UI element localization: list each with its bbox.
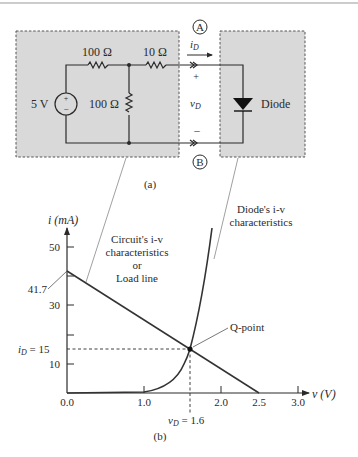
x-tick-2: 2.0 [214, 396, 228, 408]
diode-annotation-line1: Diode's i-v [237, 203, 286, 215]
iv-chart: 50 30 10 0.0 1.0 2.0 2.5 3.0 i (mA) v (V… [18, 203, 336, 443]
caption-a: (a) [144, 178, 157, 191]
terminal-a-label: A [196, 21, 204, 33]
r3-label: 100 Ω [89, 97, 119, 111]
y-intercept-label: 41.7 [28, 283, 48, 295]
circuit-annotation-line2: characteristics [106, 246, 169, 258]
leader-line-diode [214, 158, 238, 259]
q-point-label: Q-point [230, 321, 264, 333]
q-point-leader [193, 328, 228, 347]
source-label: 5 V [31, 97, 49, 111]
vd-value-label: vD = 1.6 [168, 414, 205, 428]
source-minus: − [63, 104, 68, 114]
y-tick-30: 30 [49, 299, 61, 311]
r1-label: 100 Ω [82, 45, 112, 59]
current-label: iD [190, 38, 199, 52]
terminal-b-label: B [196, 156, 203, 168]
x-tick-2-5: 2.5 [252, 396, 266, 408]
r2-label: 10 Ω [143, 45, 167, 59]
x-tick-0: 0.0 [60, 396, 74, 408]
node-dot [127, 63, 131, 67]
diode-label: Diode [261, 97, 290, 111]
x-axis-label: v (V) [312, 387, 336, 401]
intercept-leader [48, 271, 67, 289]
id-value-label: iD = 15 [18, 343, 50, 357]
y-tick-10: 10 [49, 358, 61, 370]
x-tick-3: 3.0 [291, 396, 305, 408]
voltage-label: vD [190, 97, 201, 111]
minus-mark: – [193, 124, 200, 136]
q-point-marker [187, 346, 192, 351]
y-tick-50: 50 [49, 241, 61, 253]
node-dot [127, 141, 131, 145]
circuit-annotation-line3: or [132, 259, 142, 271]
y-axis-label: i (mA) [48, 213, 78, 227]
x-tick-1: 1.0 [137, 396, 151, 408]
figure-canvas: + − 5 V 100 Ω 10 Ω 100 Ω A B iD + vD – D… [0, 0, 358, 457]
circuit-annotation-line1: Circuit's i-v [111, 233, 163, 245]
plus-mark: + [193, 71, 199, 82]
caption-b: (b) [154, 430, 167, 443]
leader-line-circuit [86, 158, 126, 282]
circuit-annotation-line4: Load line [116, 272, 158, 284]
source-plus: + [64, 94, 69, 103]
circuit-figure: + − 5 V 100 Ω 10 Ω 100 Ω A B iD + vD – D… [16, 20, 305, 191]
diode-box [220, 31, 305, 157]
diode-annotation-line2: characteristics [230, 216, 293, 228]
